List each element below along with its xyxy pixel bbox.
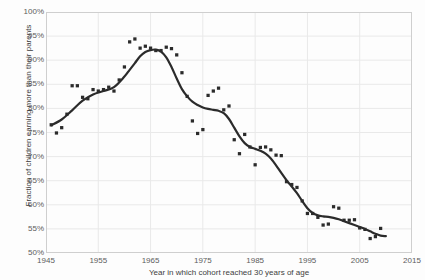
x-axis-tick-label: 1995 <box>287 256 327 265</box>
scatter-point <box>201 128 204 131</box>
grid-lines <box>46 12 412 253</box>
scatter-point <box>91 88 94 91</box>
scatter-point <box>280 154 283 157</box>
plot-svg <box>46 12 412 253</box>
plot-area <box>46 12 412 253</box>
scatter-point <box>128 40 131 43</box>
chart-figure: 50%55%60%65%70%75%80%85%90%95%100% 19451… <box>0 0 425 280</box>
scatter-point <box>264 145 267 148</box>
scatter-point <box>206 94 209 97</box>
scatter-point <box>379 227 382 230</box>
scatter-point <box>65 113 68 116</box>
y-axis-tick-label: 100% <box>4 8 44 16</box>
trend-line <box>51 50 386 237</box>
scatter-point <box>76 84 79 87</box>
scatter-point <box>102 88 105 91</box>
scatter-point <box>233 138 236 141</box>
scatter-point <box>353 218 356 221</box>
scatter-point <box>274 154 277 157</box>
scatter-point <box>165 46 168 49</box>
scatter-point <box>50 123 53 126</box>
scatter-point <box>55 131 58 134</box>
x-axis-tick-label: 1965 <box>131 256 171 265</box>
scatter-point <box>295 186 298 189</box>
scatter-point <box>159 49 162 52</box>
x-axis-title: Year in which cohort reached 30 years of… <box>46 268 412 277</box>
scatter-point <box>254 163 257 166</box>
scatter-point <box>227 104 230 107</box>
scatter-point <box>222 108 225 111</box>
scatter-point <box>138 47 141 50</box>
x-axis-tick-label: 1945 <box>26 256 66 265</box>
scatter-point <box>374 235 377 238</box>
scatter-point <box>186 95 189 98</box>
scatter-point <box>97 89 100 92</box>
scatter-point <box>118 78 121 81</box>
scatter-point <box>321 223 324 226</box>
scatter-point <box>363 228 366 231</box>
scatter-point <box>133 37 136 40</box>
scatter-point <box>238 152 241 155</box>
x-axis-tick-label: 1985 <box>235 256 275 265</box>
scatter-point <box>348 219 351 222</box>
scatter-point <box>196 132 199 135</box>
cropped-title-remnant <box>0 0 425 9</box>
scatter-point <box>212 89 215 92</box>
scatter-point <box>81 96 84 99</box>
scatter-point <box>332 205 335 208</box>
scatter-point <box>180 71 183 74</box>
scatter-point <box>217 87 220 90</box>
scatter-point <box>342 219 345 222</box>
scatter-point <box>175 53 178 56</box>
scatter-point <box>301 199 304 202</box>
scatter-point <box>269 148 272 151</box>
scatter-point <box>290 183 293 186</box>
scatter-point <box>154 49 157 52</box>
scatter-point <box>248 145 251 148</box>
scatter-point <box>71 84 74 87</box>
x-axis-tick-label: 2015 <box>392 256 425 265</box>
y-axis-title: Fraction of children earning more than t… <box>24 27 33 207</box>
scatter-point <box>170 47 173 50</box>
x-axis-tick-label: 1975 <box>183 256 223 265</box>
x-axis-tick-label: 2005 <box>340 256 380 265</box>
scatter-point <box>107 86 110 89</box>
scatter-points <box>50 37 383 240</box>
y-axis-tick-label: 55% <box>4 225 44 233</box>
scatter-point <box>112 89 115 92</box>
scatter-point <box>311 212 314 215</box>
scatter-point <box>337 207 340 210</box>
scatter-point <box>259 146 262 149</box>
x-axis-tick-label: 1955 <box>78 256 118 265</box>
scatter-point <box>327 222 330 225</box>
scatter-point <box>243 133 246 136</box>
scatter-point <box>149 47 152 50</box>
scatter-point <box>60 126 63 129</box>
scatter-point <box>86 97 89 100</box>
scatter-point <box>306 212 309 215</box>
scatter-point <box>358 226 361 229</box>
scatter-point <box>123 65 126 68</box>
scatter-point <box>316 216 319 219</box>
scatter-point <box>144 45 147 48</box>
scatter-point <box>285 180 288 183</box>
scatter-point <box>191 119 194 122</box>
scatter-point <box>369 237 372 240</box>
